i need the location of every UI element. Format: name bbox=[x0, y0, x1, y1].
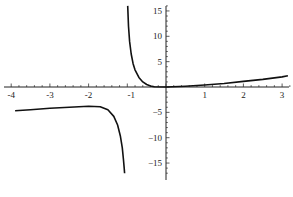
function-plot: -4-3-2-112315105−5−10−15 bbox=[0, 0, 293, 197]
x-tick-label: 1 bbox=[202, 90, 207, 100]
y-tick-label: 5 bbox=[158, 57, 163, 67]
x-tick-label: 2 bbox=[241, 90, 246, 100]
plot-curves bbox=[15, 6, 288, 173]
y-tick-label: −15 bbox=[148, 158, 163, 168]
y-tick-label: −10 bbox=[148, 133, 163, 143]
y-tick-label: 10 bbox=[153, 31, 163, 41]
curve-left-branch bbox=[15, 106, 125, 173]
y-tick-label: 15 bbox=[153, 6, 163, 16]
x-tick-label: -2 bbox=[85, 90, 93, 100]
x-tick-label: -1 bbox=[128, 90, 136, 100]
x-tick-label: -3 bbox=[46, 90, 54, 100]
curve-right-branch bbox=[128, 6, 288, 87]
x-tick-label: 3 bbox=[280, 90, 285, 100]
y-tick-label: −5 bbox=[152, 107, 162, 117]
x-tick-label: -4 bbox=[7, 90, 15, 100]
